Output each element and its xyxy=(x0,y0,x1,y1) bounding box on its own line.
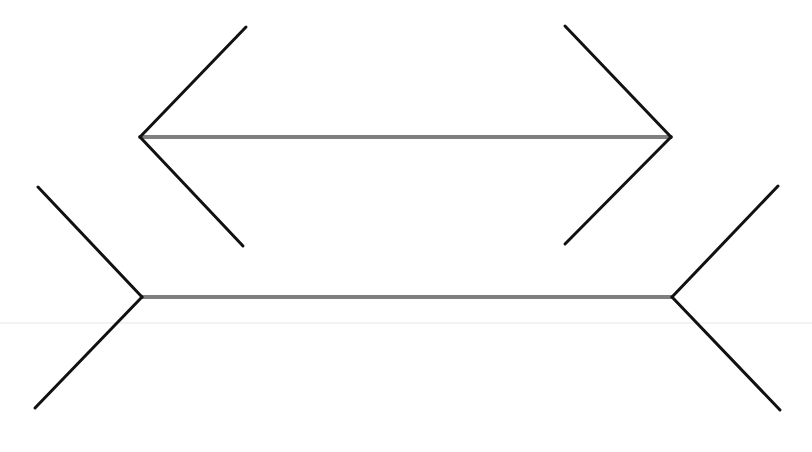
bottom-left-upper-fin xyxy=(38,187,142,297)
top-left-upper-fin xyxy=(140,27,246,137)
bottom-figure-outward-arrows xyxy=(35,186,780,410)
top-left-lower-fin xyxy=(140,137,243,246)
top-right-lower-fin xyxy=(565,137,671,244)
muller-lyer-figure xyxy=(0,0,812,452)
bottom-right-upper-fin xyxy=(672,186,778,297)
top-right-upper-fin xyxy=(565,26,671,137)
bottom-left-lower-fin xyxy=(35,297,142,408)
top-figure-inward-arrows xyxy=(140,26,671,246)
bottom-right-lower-fin xyxy=(672,297,780,410)
